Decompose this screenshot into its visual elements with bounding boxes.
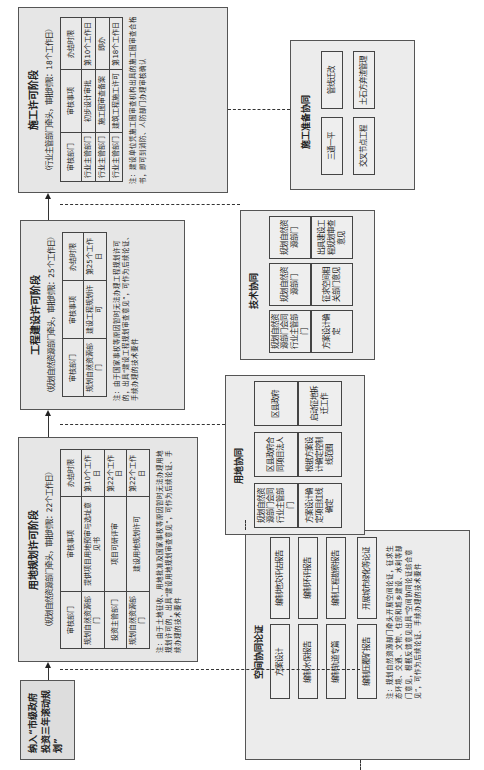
cell: 规划自然资源部门 (127, 592, 150, 649)
arrow-icon (45, 193, 51, 199)
construction-stage: 施工许可阶段 （行业主管部门牵头，审批时限：18个工作日） 审核部门 审核事项 … (18, 7, 228, 193)
header-time: 办结时限 (61, 450, 82, 497)
land-use-title: 用地规划许可阶段 (25, 438, 40, 661)
dashed-connector (60, 424, 225, 425)
construction-subtitle: （行业主管部门牵头，审批时限：18个工作日） (43, 8, 54, 192)
cell: 规划自然资源部门 (84, 339, 107, 397)
cell: 建设工程规划许可 (84, 281, 107, 339)
header-item: 审核事项 (61, 69, 82, 132)
spatial-note: 注：规划自然资源部门牵头开展空间论证，征求生态环境、交通、文物、住房和城乡建设、… (386, 539, 424, 699)
start-label: 纳入“市级政府投资三年滚动规划” (21, 681, 71, 759)
table-row: 规划自然资源部门 建设用地规划许可 第22个工作日 (127, 450, 150, 649)
prep-coord-title: 施工准备协同 (299, 95, 312, 149)
cell: 行业主管部门 (95, 133, 109, 182)
start-box: 纳入“市级政府投资三年滚动规划” (20, 680, 75, 760)
arrow-icon (45, 410, 51, 416)
cell: 提供项目用地预审与选址意见书 (82, 497, 105, 592)
spatial-item: 方案设计 (270, 624, 290, 699)
table-row: 行业主管部门 建筑工程施工许可 第18个工作日 (109, 18, 123, 182)
spatial-item: 编制工程勘察报告 (326, 537, 346, 619)
cell: 初步设计审批 (82, 69, 96, 132)
tech-coord-title: 技术协同 (247, 273, 260, 309)
table-row: 投资主管部门 项目可研评审 第22个工作日 (104, 450, 127, 649)
land-coordination: 用地协同 规划自然资源部门会同行业主管部门 方案设计确定项目红线确定 区县政府合… (225, 375, 365, 535)
dashed-connector (60, 204, 240, 205)
cell: 第22个工作日 (127, 450, 150, 497)
header-dept: 审核部门 (61, 592, 82, 649)
tech-coord-dept: 规划自然资源部门 (269, 263, 311, 306)
cell: 项目可研评审 (104, 497, 127, 592)
tech-coord-dept: 规划自然资源部门 (269, 216, 311, 259)
dashed-connector (228, 109, 290, 110)
land-use-note: 注：由于土地征收、用地批准及国家事权等原因暂时无法办理用地规划许可的，出具“建设… (156, 446, 184, 653)
prep-coordination: 施工准备协同 三通一平 管线迁改 交叉节点工程 土石方弃渣管理 (290, 40, 415, 190)
spatial-item: 编制地灾评估报告 (270, 537, 290, 619)
engineering-title: 工程建设许可阶段 (27, 221, 42, 409)
land-coord-dept: 规划自然资源部门会同行业主管部门 (254, 483, 298, 528)
prep-item: 土石方弃渣管理 (353, 51, 375, 109)
flow-diagram: 纳入“市级政府投资三年滚动规划” 用地规划许可阶段 （规划自然资源部门牵头，审批… (0, 0, 484, 770)
stage-connector (48, 415, 49, 437)
tech-coordination: 技术协同 规划自然资源部门会同行业主管部门 方案设计确定 规划自然资源部门 征求… (240, 210, 375, 360)
header-item: 审核事项 (63, 281, 84, 339)
land-coord-task: 启动征地拆迁工作 (298, 381, 342, 426)
arrow-icon (45, 662, 51, 668)
tech-coord-dept: 规划自然资源部门会同行业主管部门 (269, 310, 311, 353)
cell: 第10个工作日 (82, 450, 105, 497)
table-row: 行业主管部门 施工图审查备案 即办 (95, 18, 109, 182)
cell: 行业主管部门 (82, 133, 96, 182)
engineering-note: 注：由于国家事权等原因暂时无法办理工程规划许可的，出具“建设工程规划审查意见”，… (113, 229, 141, 401)
prep-item: 交叉节点工程 (353, 117, 375, 175)
prep-item: 三通一平 (321, 117, 343, 175)
cell: 规划自然资源部门 (82, 592, 105, 649)
spatial-item: 编制轨道专篇 (326, 624, 346, 699)
cell: 行业主管部门 (109, 133, 123, 182)
spatial-item: 编制压覆矿报告 (357, 624, 377, 699)
spatial-item: 编制水保报告 (298, 624, 318, 699)
table-row: 规划自然资源部门 建设工程规划许可 第25个工作日 (84, 233, 107, 397)
land-use-stage: 用地规划许可阶段 （规划自然资源部门牵头，审批时限：22个工作日） 审核部门 审… (18, 437, 198, 662)
dashed-connector (245, 520, 246, 530)
header-dept: 审核部门 (63, 339, 84, 397)
land-coord-title: 用地协同 (232, 448, 245, 484)
land-coord-dept: 区县政府合同项目法人 (254, 432, 298, 477)
table-row: 行业主管部门 初步设计审批 第10个工作日 (82, 18, 96, 182)
cell: 第25个工作日 (84, 233, 107, 281)
engineering-subtitle: （规划自然资源部门牵头，审批时限：25个工作日） (45, 221, 56, 409)
prep-item: 管线迁改 (321, 51, 343, 109)
header-time: 办结时限 (63, 233, 84, 281)
spatial-coordination: 空间协同论证 方案设计 编制水保报告 编制轨道专篇 编制压覆矿报告 编制地灾评估… (245, 530, 470, 760)
cell: 建筑工程施工许可 (109, 69, 123, 132)
cell: 投资主管部门 (104, 592, 127, 649)
cell: 施工图审查备案 (95, 69, 109, 132)
land-use-table: 审核部门 审核事项 办结时限 规划自然资源部门 提供项目用地预审与选址意见书 第… (60, 450, 150, 650)
cell: 第10个工作日 (82, 18, 96, 69)
land-coord-task: 方案设计确定项目红线确定 (298, 483, 342, 528)
engineering-table: 审核部门 审核事项 办结时限 规划自然资源部门 建设工程规划许可 第25个工作日 (62, 233, 107, 398)
spatial-title: 空间协同论证 (252, 625, 265, 679)
cell: 第22个工作日 (104, 450, 127, 497)
land-coord-dept: 区县政府 (254, 381, 298, 426)
spatial-item: 开展城市绿化等论证 (357, 537, 377, 619)
construction-note: 注：建设单位凭施工图审查机构出具的施工图审查合格书，即可到消防、人防部门办理审核… (129, 16, 148, 184)
header-item: 审核事项 (61, 497, 82, 592)
header-time: 办结时限 (61, 18, 82, 69)
spatial-item: 编制环评报告 (298, 537, 318, 619)
land-use-subtitle: （规划自然资源部门牵头，审批时限：22个工作日） (43, 438, 54, 661)
table-row: 规划自然资源部门 提供项目用地预审与选址意见书 第10个工作日 (82, 450, 105, 649)
cell: 第18个工作日 (109, 18, 123, 69)
tech-coord-task: 方案设计确定 (311, 310, 353, 353)
dashed-connector (60, 669, 360, 670)
tech-coord-task: 出具建设工程规划审查意见 (311, 216, 353, 259)
header-dept: 审核部门 (61, 133, 82, 182)
land-coord-task: 根据方案设计确定控制线范围 (298, 432, 342, 477)
construction-title: 施工许可阶段 (25, 8, 40, 192)
stage-connector (48, 198, 49, 220)
cell: 建设用地规划许可 (127, 497, 150, 592)
dashed-connector (360, 760, 361, 770)
construction-table: 审核部门 审核事项 办结时限 行业主管部门 初步设计审批 第10个工作日 行业主… (60, 18, 123, 183)
tech-coord-task: 征求空间相关部门意见 (311, 263, 353, 306)
start-connector (48, 666, 49, 680)
cell: 即办 (95, 18, 109, 69)
engineering-stage: 工程建设许可阶段 （规划自然资源部门牵头，审批时限：25个工作日） 审核部门 审… (20, 220, 185, 410)
